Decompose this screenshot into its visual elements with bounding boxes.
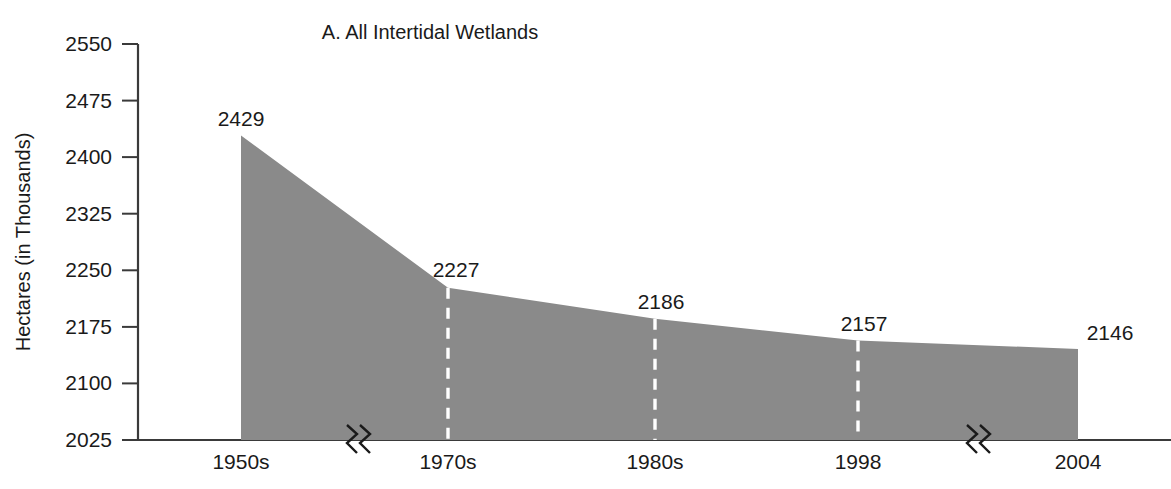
x-tick-label-1950s: 1950s [212, 450, 269, 473]
x-tick-label-2004: 2004 [1055, 450, 1102, 473]
value-label-2004: 2146 [1087, 321, 1134, 344]
y-tick-label-2400: 2400 [65, 145, 112, 168]
chart-title: A. All Intertidal Wetlands [322, 21, 538, 43]
y-axis-title: Hectares (in Thousands) [12, 133, 34, 352]
x-tick-label-1980s: 1980s [626, 450, 683, 473]
y-tick-label-2250: 2250 [65, 258, 112, 281]
y-tick-label-2475: 2475 [65, 89, 112, 112]
y-tick-label-2175: 2175 [65, 315, 112, 338]
intertidal-wetlands-area-chart: A. All Intertidal Wetlands Hectares (in … [0, 0, 1171, 489]
chart-container: A. All Intertidal Wetlands Hectares (in … [0, 0, 1171, 489]
x-tick-label-1970s: 1970s [419, 450, 476, 473]
y-tick-label-2100: 2100 [65, 371, 112, 394]
value-label-1970s: 2227 [433, 258, 480, 281]
value-label-1980s: 2186 [638, 290, 685, 313]
value-label-1950s: 2429 [218, 107, 265, 130]
x-tick-label-1998: 1998 [835, 450, 882, 473]
y-tick-label-2550: 2550 [65, 32, 112, 55]
y-tick-label-2325: 2325 [65, 202, 112, 225]
value-label-1998: 2157 [841, 312, 888, 335]
y-tick-label-2025: 2025 [65, 428, 112, 451]
